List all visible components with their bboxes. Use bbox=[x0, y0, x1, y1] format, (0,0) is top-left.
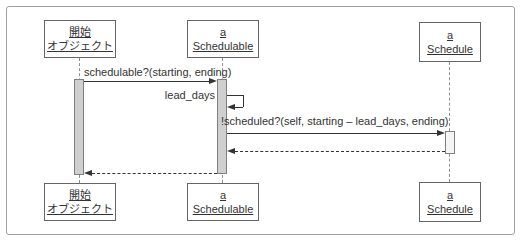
object-box-schedulable-top: a Schedulable bbox=[187, 20, 259, 58]
object-label: オブジェクト bbox=[47, 202, 113, 216]
arrowhead-right-icon bbox=[437, 130, 445, 136]
object-label: Schedule bbox=[427, 202, 473, 216]
arrowhead-left-icon bbox=[84, 170, 92, 176]
object-label: a bbox=[447, 188, 453, 202]
message-arrow-not-scheduled bbox=[227, 133, 437, 134]
lifeline-schedule bbox=[449, 62, 450, 182]
object-label: Schedule bbox=[427, 42, 473, 56]
object-label: Schedulable bbox=[193, 39, 254, 53]
message-label-schedulable: schedulable?(starting, ending) bbox=[84, 66, 231, 78]
object-box-schedule-bottom: a Schedule bbox=[419, 182, 481, 222]
self-call-bottom-segment bbox=[235, 107, 243, 108]
object-label: 開始 bbox=[69, 25, 91, 39]
message-arrow-schedulable bbox=[84, 81, 209, 82]
object-label: オブジェクト bbox=[47, 39, 113, 53]
activation-initiator bbox=[74, 79, 84, 175]
return-arrow-schedulable bbox=[92, 173, 217, 174]
object-box-initiator-bottom: 開始 オブジェクト bbox=[44, 183, 116, 221]
message-label-not-scheduled: !scheduled?(self, starting – lead_days, … bbox=[221, 115, 448, 127]
activation-schedule bbox=[445, 131, 455, 154]
sequence-diagram: 開始 オブジェクト a Schedulable a Schedule 開始 オブ… bbox=[0, 0, 524, 246]
return-arrow-schedule bbox=[235, 151, 445, 152]
object-label: a bbox=[220, 25, 226, 39]
self-call-top-segment bbox=[227, 95, 243, 96]
object-box-schedule-top: a Schedule bbox=[419, 22, 481, 62]
object-label: Schedulable bbox=[193, 202, 254, 216]
object-label: a bbox=[447, 28, 453, 42]
object-label: 開始 bbox=[69, 188, 91, 202]
object-box-initiator-top: 開始 オブジェクト bbox=[44, 20, 116, 58]
self-call-right-segment bbox=[243, 95, 244, 107]
object-box-schedulable-bottom: a Schedulable bbox=[187, 183, 259, 221]
message-label-lead-days: lead_days bbox=[155, 89, 215, 101]
arrowhead-left-icon bbox=[227, 104, 235, 110]
object-label: a bbox=[220, 188, 226, 202]
arrowhead-left-icon bbox=[227, 148, 235, 154]
arrowhead-right-icon bbox=[209, 78, 217, 84]
